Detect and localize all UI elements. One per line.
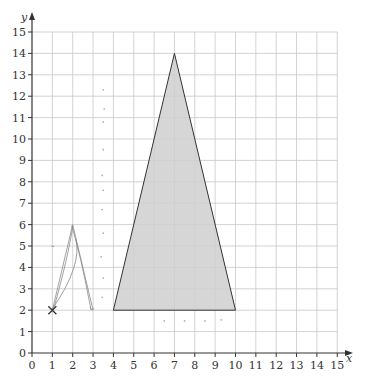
x-tick-label: 7: [171, 359, 178, 372]
x-tick-label: 5: [130, 359, 137, 372]
y-tick-label: 9: [19, 154, 26, 167]
y-tick-label: 14: [12, 47, 26, 60]
x-tick-label: 13: [290, 359, 304, 372]
sketch-line: [53, 227, 72, 311]
pencil-dot: [103, 108, 105, 110]
pencil-dot: [184, 320, 186, 322]
y-tick-labels: 0123456789101112131415: [12, 26, 32, 360]
pencil-dot: [102, 89, 104, 91]
y-tick-label: 7: [19, 197, 26, 210]
coordinate-grid-diagram: 0123456789101112131415 01234567891011121…: [0, 0, 365, 385]
y-tick-label: 10: [12, 133, 26, 146]
x-tick-label: 9: [212, 359, 219, 372]
y-tick-label: 5: [19, 240, 26, 253]
y-tick-label: 0: [19, 347, 26, 360]
pencil-sketch: [48, 225, 94, 315]
x-tick-label: 12: [269, 359, 283, 372]
y-tick-label: 13: [12, 69, 26, 82]
x-tick-label: 15: [330, 359, 344, 372]
y-tick-label: 3: [19, 283, 26, 296]
y-tick-label: 15: [12, 26, 26, 39]
sketch-line: [52, 239, 77, 310]
x-tick-label: 4: [110, 359, 117, 372]
pencil-dot: [102, 149, 104, 151]
y-axis-label: y: [20, 11, 28, 24]
pencil-dot: [100, 256, 102, 258]
x-tick-label: 6: [151, 359, 158, 372]
x-tick-labels: 0123456789101112131415: [29, 353, 345, 372]
y-tick-label: 2: [19, 304, 26, 317]
x-tick-label: 11: [249, 359, 263, 372]
pencil-dot: [163, 320, 165, 322]
pencil-dot: [102, 121, 104, 123]
pencil-dot: [220, 319, 222, 321]
y-tick-label: 4: [19, 261, 26, 274]
pencil-dot: [102, 232, 104, 234]
x-tick-label: 10: [229, 359, 243, 372]
pencil-dot: [101, 296, 103, 298]
sketch-mark: [51, 246, 54, 247]
x-tick-label: 14: [310, 359, 324, 372]
x-tick-label: 1: [49, 359, 56, 372]
y-tick-label: 1: [19, 326, 26, 339]
y-axis-arrow-icon: [29, 12, 35, 20]
pencil-dot: [204, 320, 206, 322]
y-tick-label: 6: [19, 219, 26, 232]
y-tick-label: 8: [19, 176, 26, 189]
x-tick-label: 3: [90, 359, 97, 372]
sketch-line: [72, 226, 91, 311]
x-tick-label: 0: [29, 359, 36, 372]
y-tick-label: 11: [12, 112, 26, 125]
pencil-dot: [102, 277, 104, 279]
pencil-dot: [101, 174, 103, 176]
x-axis-label: x: [346, 352, 353, 365]
x-tick-label: 8: [191, 359, 198, 372]
pencil-dot: [102, 189, 104, 191]
y-tick-label: 12: [12, 90, 26, 103]
pencil-dot: [101, 209, 103, 211]
x-tick-label: 2: [69, 359, 76, 372]
